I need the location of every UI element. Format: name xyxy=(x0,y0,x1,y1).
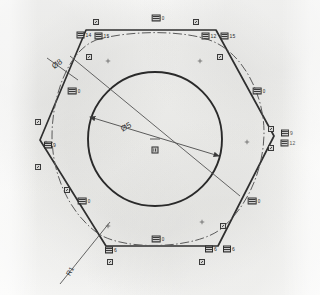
label-chip-icon xyxy=(281,140,289,147)
center-point-marker xyxy=(152,147,159,154)
edge-label: 15 xyxy=(95,33,110,40)
edge-label-value: 0 xyxy=(88,199,91,204)
edge-label-value: 9 xyxy=(290,131,293,136)
edge-label: 0 xyxy=(152,236,165,243)
label-chip-icon xyxy=(152,15,161,22)
edge-label-value: 0 xyxy=(258,199,261,204)
label-chip-icon xyxy=(248,198,257,205)
edge-label: 0 xyxy=(152,15,165,22)
node-marker xyxy=(93,19,99,25)
edge-label: 9 xyxy=(281,130,293,137)
edge-label: 14 xyxy=(77,32,92,39)
cross-marker xyxy=(198,59,203,64)
label-chip-icon xyxy=(105,247,113,254)
label-chip-icon xyxy=(202,33,210,40)
label-chip-icon xyxy=(95,33,103,40)
node-marker xyxy=(220,223,226,229)
edge-label-value: 12 xyxy=(290,141,296,146)
cross-marker xyxy=(200,220,205,225)
edge-label: 12 xyxy=(281,140,296,147)
label-chip-icon xyxy=(223,246,231,253)
label-chip-icon xyxy=(78,198,87,205)
edge-label: 6 xyxy=(105,247,117,254)
edge-label: 0 xyxy=(78,198,91,205)
edge-label-value: 15 xyxy=(104,34,110,39)
node-marker xyxy=(107,259,113,265)
edge-label: 12 xyxy=(202,33,217,40)
edge-label: 9 xyxy=(44,142,56,149)
node-marker xyxy=(268,145,274,151)
cross-marker xyxy=(106,224,111,229)
edge-label-value: 12 xyxy=(211,34,217,39)
edge-label-value: 15 xyxy=(230,34,236,39)
dia8-leader xyxy=(70,56,240,196)
edge-label: 6 xyxy=(205,246,217,253)
edge-label-value: 6 xyxy=(214,247,217,252)
node-marker xyxy=(86,54,92,60)
label-chip-icon xyxy=(253,88,262,95)
edge-label-value: 0 xyxy=(263,89,266,94)
node-marker xyxy=(35,119,41,125)
node-marker xyxy=(268,126,274,132)
node-marker xyxy=(64,187,70,193)
drawing-canvas: Ø8 Ø5 R1 14 15 12 xyxy=(0,0,320,295)
label-chip-icon xyxy=(77,32,85,39)
edge-label-value: 0 xyxy=(78,89,81,94)
edge-label-value: 6 xyxy=(114,248,117,253)
label-chip-icon xyxy=(68,88,77,95)
edge-label: 0 xyxy=(68,88,81,95)
edge-label-value: 0 xyxy=(162,237,165,242)
node-marker xyxy=(217,54,223,60)
edge-label: 0 xyxy=(253,88,266,95)
edge-label-value: 9 xyxy=(53,143,56,148)
cross-marker xyxy=(106,59,111,64)
edge-label: 6 xyxy=(223,246,235,253)
cross-marker xyxy=(245,140,250,145)
node-marker xyxy=(199,259,205,265)
edge-label: 0 xyxy=(248,198,261,205)
edge-label-value: 14 xyxy=(86,33,92,38)
label-chip-icon xyxy=(152,236,161,243)
label-chip-icon xyxy=(44,142,52,149)
label-chip-icon xyxy=(205,246,213,253)
edge-label-value: 6 xyxy=(232,247,235,252)
label-chip-icon xyxy=(221,33,229,40)
edge-label-value: 0 xyxy=(162,16,165,21)
node-marker xyxy=(35,164,41,170)
node-marker xyxy=(193,19,199,25)
edge-label: 15 xyxy=(221,33,236,40)
hexagon-outline xyxy=(40,30,274,246)
label-chip-icon xyxy=(281,130,289,137)
